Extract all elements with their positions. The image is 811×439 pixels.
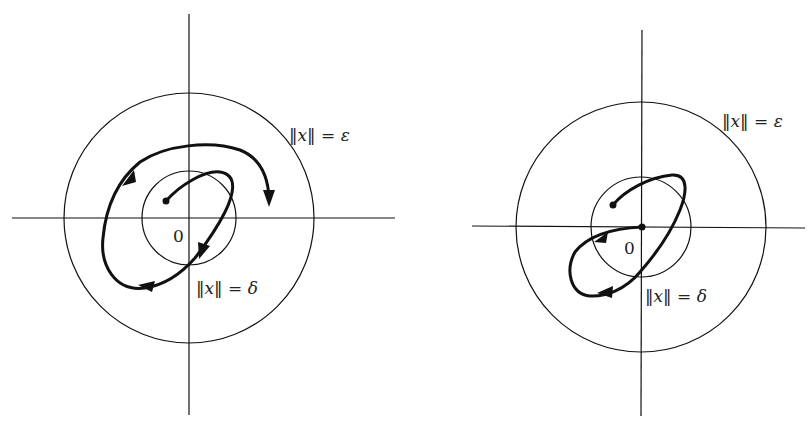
origin-point-icon: [639, 224, 646, 231]
stability-diagram: 0 ‖x‖ = ε ‖x‖ = δ 0 ‖x‖ = ε ‖x‖ = δ: [0, 0, 811, 439]
trajectory: [103, 145, 269, 289]
start-point-icon: [163, 198, 170, 205]
arrow-icon: [138, 281, 155, 292]
arrow-icon: [198, 242, 210, 259]
delta-label: ‖x‖ = δ: [645, 286, 707, 306]
epsilon-label: ‖x‖ = ε: [289, 125, 350, 145]
origin-label: 0: [624, 238, 635, 258]
trajectory: [570, 175, 685, 296]
arrow-icon: [263, 190, 275, 207]
origin-label: 0: [173, 226, 184, 246]
y-axis: [641, 30, 642, 416]
start-point-icon: [610, 202, 617, 209]
figure-right: 0 ‖x‖ = ε ‖x‖ = δ: [472, 30, 805, 416]
figure-left: 0 ‖x‖ = ε ‖x‖ = δ: [12, 14, 395, 415]
delta-label: ‖x‖ = δ: [196, 278, 258, 298]
epsilon-label: ‖x‖ = ε: [722, 111, 783, 131]
